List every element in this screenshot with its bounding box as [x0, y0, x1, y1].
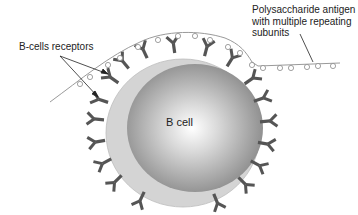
antigen-label-line-2: with multiple repeating — [252, 16, 355, 28]
polysaccharide-antigen-label: Polysaccharide antigen with multiple rep… — [252, 4, 355, 39]
b-cell-receptors-label: B-cells receptors — [19, 41, 93, 53]
cell-nucleus-sphere — [127, 64, 263, 192]
antigen-label-line-3: subunits — [252, 27, 355, 39]
antigen-label-line-1: Polysaccharide antigen — [252, 4, 355, 16]
b-cell-label: B cell — [166, 117, 193, 129]
